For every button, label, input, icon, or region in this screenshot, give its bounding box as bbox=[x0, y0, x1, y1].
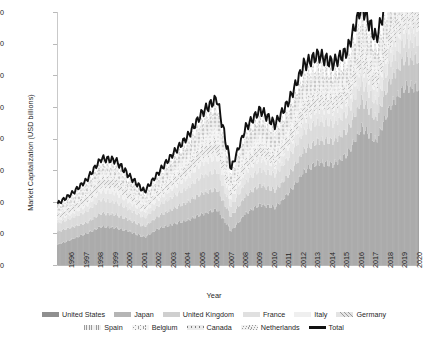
legend-row: United StatesJapanUnited KingdomFranceIt… bbox=[0, 308, 428, 321]
x-axis-tick-label: 2010 bbox=[270, 252, 279, 268]
y-axis-tick-label: 20,000 bbox=[0, 134, 4, 143]
zigzag-block-icon bbox=[241, 325, 258, 330]
legend-label: United States bbox=[62, 311, 105, 318]
y-axis-title: Market Capitalization (USD billions) bbox=[26, 38, 35, 268]
x-axis-tick-label: 2000 bbox=[125, 252, 134, 268]
legend-item-france[interactable]: France bbox=[243, 311, 285, 318]
legend-row: SpainBelgiumCanadaNetherlandsTotal bbox=[0, 321, 428, 334]
lighter-gray-block-icon bbox=[243, 312, 260, 317]
x-axis-tick-label: 2002 bbox=[154, 252, 163, 268]
legend-label: United Kingdom bbox=[183, 311, 234, 318]
legend-item-united-kingdom[interactable]: United Kingdom bbox=[163, 311, 234, 318]
dotted-block-icon bbox=[84, 325, 101, 330]
x-axis-tick-label: 1997 bbox=[82, 252, 91, 268]
legend-item-spain[interactable]: Spain bbox=[84, 324, 122, 331]
x-axis-tick-label: 2014 bbox=[328, 252, 337, 268]
market-capitalization-chart: Market Capitalization (USD billions) 40,… bbox=[0, 0, 428, 345]
x-axis-tick-label: 2017 bbox=[371, 252, 380, 268]
x-axis-tick-label: 2001 bbox=[140, 252, 149, 268]
legend-label: Japan bbox=[134, 311, 154, 318]
legend-item-united-states[interactable]: United States bbox=[42, 311, 105, 318]
x-axis-tick-label: 2007 bbox=[227, 252, 236, 268]
x-axis-tick-label: 2020 bbox=[415, 252, 424, 268]
light-gray-block-icon bbox=[163, 312, 180, 317]
x-axis-tick-label: 2013 bbox=[313, 252, 322, 268]
x-axis-title: Year bbox=[0, 291, 428, 300]
y-axis-tick-label: 10,000 bbox=[0, 198, 4, 207]
legend-item-canada[interactable]: Canada bbox=[187, 324, 232, 331]
dark-gray-block-icon bbox=[42, 312, 59, 317]
legend-label: Netherlands bbox=[261, 324, 300, 331]
stacked-area-series bbox=[57, 12, 419, 265]
legend-item-germany[interactable]: Germany bbox=[336, 311, 386, 318]
x-axis-tick-label: 2006 bbox=[212, 252, 221, 268]
legend-item-japan[interactable]: Japan bbox=[114, 311, 154, 318]
legend-label: Spain bbox=[104, 324, 122, 331]
y-axis-tick-label: 0 bbox=[0, 261, 4, 270]
x-axis-tick-label: 2008 bbox=[241, 252, 250, 268]
x-axis-tick-label: 2011 bbox=[284, 253, 293, 268]
x-axis-tick-label: 2016 bbox=[357, 252, 366, 268]
legend-item-netherlands[interactable]: Netherlands bbox=[241, 324, 300, 331]
legend-label: Belgium bbox=[152, 324, 178, 331]
x-axis-tick-label: 2018 bbox=[386, 252, 395, 268]
y-axis-tick-label: 15,000 bbox=[0, 166, 4, 175]
legend-label: Italy bbox=[314, 311, 327, 318]
plot-area bbox=[57, 12, 419, 265]
x-axis-tick-label: 2003 bbox=[169, 252, 178, 268]
y-axis-tick-label: 30,000 bbox=[0, 71, 4, 80]
legend-label: Total bbox=[329, 324, 344, 331]
x-axis-tick-label: 2004 bbox=[183, 252, 192, 268]
y-axis-tick-label: 5,000 bbox=[0, 229, 4, 238]
legend-item-belgium[interactable]: Belgium bbox=[132, 324, 178, 331]
legend-label: Germany bbox=[356, 311, 386, 318]
y-axis-tick-label: 25,000 bbox=[0, 103, 4, 112]
x-axis-tick-label: 2009 bbox=[255, 252, 264, 268]
x-axis-tick-label: 1996 bbox=[67, 252, 76, 268]
medium-gray-block-icon bbox=[114, 312, 131, 317]
x-axis-tick-label: 2015 bbox=[342, 252, 351, 268]
black-line-icon bbox=[309, 326, 326, 329]
x-axis-tick-label: 2012 bbox=[299, 252, 308, 268]
legend-label: Canada bbox=[207, 324, 232, 331]
x-axis-tick-label: 1998 bbox=[96, 252, 105, 268]
x-axis-tick-label: 2019 bbox=[400, 252, 409, 268]
x-axis-tick-label: 2005 bbox=[198, 252, 207, 268]
circles-block-icon bbox=[132, 325, 149, 330]
hatched-block-icon bbox=[336, 312, 353, 317]
chart-legend: United StatesJapanUnited KingdomFranceIt… bbox=[0, 308, 428, 334]
legend-label: France bbox=[263, 311, 285, 318]
plus-marks-block-icon bbox=[187, 325, 204, 330]
very-light-gray-block-icon bbox=[294, 312, 311, 317]
y-axis-tick-label: 40,000 bbox=[0, 8, 4, 17]
x-axis-tick-label: 1999 bbox=[111, 252, 120, 268]
legend-item-italy[interactable]: Italy bbox=[294, 311, 327, 318]
y-axis-tick-label: 35,000 bbox=[0, 39, 4, 48]
legend-item-total[interactable]: Total bbox=[309, 324, 344, 331]
